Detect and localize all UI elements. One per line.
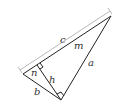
label-m: m <box>74 40 83 51</box>
label-a: a <box>88 57 94 68</box>
label-c: c <box>60 34 66 45</box>
label-b: b <box>34 86 40 97</box>
triangle-diagram: c m n h a b <box>0 0 121 112</box>
right-angle-marker-foot <box>40 63 43 69</box>
label-n: n <box>31 67 37 78</box>
label-h: h <box>49 74 55 85</box>
